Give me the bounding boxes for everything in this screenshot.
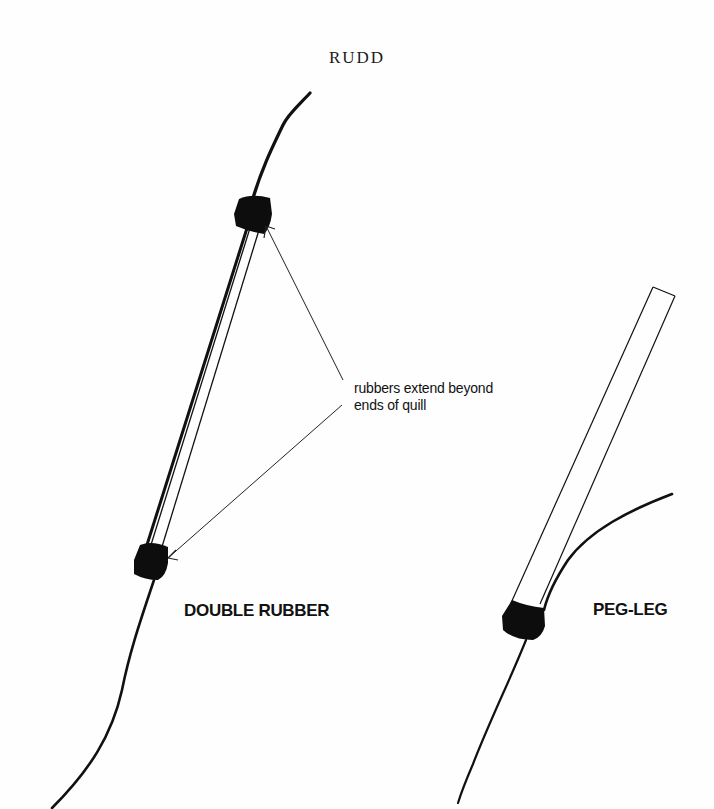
quill-float-double	[150, 228, 259, 550]
callout-line-1: rubbers extend beyond	[354, 380, 493, 397]
diagram-page: RUDD rubbers extend beyond ends of quill…	[0, 0, 714, 809]
line-bottom-double	[52, 580, 154, 808]
peg-leg-rubber	[502, 600, 545, 640]
top-rubber	[234, 196, 272, 234]
callout-line-2: ends of quill	[354, 397, 493, 414]
page-title: RUDD	[0, 48, 714, 68]
arrowhead-bottom	[168, 550, 178, 560]
double-rubber-label: DOUBLE RUBBER	[184, 601, 329, 621]
bottom-rubber	[134, 543, 168, 580]
quill-float-peg	[511, 287, 675, 604]
callout-label: rubbers extend beyond ends of quill	[354, 380, 493, 414]
line-top-double	[253, 93, 310, 198]
peg-leg-label: PEG-LEG	[593, 600, 667, 620]
line-along-quill	[146, 225, 248, 548]
arrow-to-top-rubber	[266, 226, 343, 380]
peg-leg-rig	[458, 287, 675, 803]
double-rubber-rig	[52, 93, 310, 808]
line-bottom-peg	[458, 640, 526, 803]
arrow-to-bottom-rubber	[168, 405, 342, 558]
